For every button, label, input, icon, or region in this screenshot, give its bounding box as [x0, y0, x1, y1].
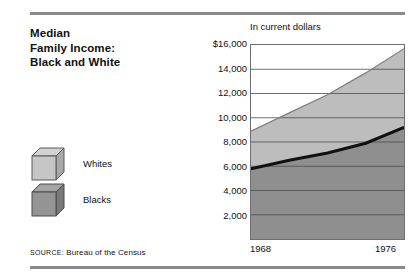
y-axis-tick-label: 10,000 — [192, 112, 247, 123]
y-axis-tick-label: 4,000 — [192, 185, 247, 196]
source-text: Bureau of the Census — [66, 248, 145, 257]
y-axis-tick-label: 12,000 — [192, 87, 247, 98]
page-title-line-1: Median — [30, 26, 195, 41]
source-note: SOURCE: Bureau of the Census — [30, 248, 146, 257]
top-divider — [30, 12, 405, 15]
bottom-divider — [30, 266, 405, 269]
source-prefix: SOURCE: — [30, 249, 64, 256]
x-axis-tick-label: 1976 — [375, 243, 396, 254]
y-axis-tick-label: 14,000 — [192, 63, 247, 74]
cube-icon — [31, 183, 65, 217]
y-axis-tick-label: 6,000 — [192, 161, 247, 172]
y-axis-tick-label: $16,000 — [192, 38, 247, 49]
chart-subtitle: In current dollars — [250, 21, 321, 32]
legend-label-whites: Whites — [83, 158, 112, 169]
chart-plot-area — [250, 44, 405, 240]
cube-icon — [31, 147, 65, 181]
legend-label-blacks: Blacks — [83, 194, 111, 205]
chart-svg — [251, 45, 404, 239]
y-axis-tick-label: 8,000 — [192, 136, 247, 147]
page-title: Median Family Income: Black and White — [30, 26, 195, 70]
y-axis-tick-label: 2,000 — [192, 210, 247, 221]
x-axis-tick-label: 1968 — [250, 243, 271, 254]
page-title-line-3: Black and White — [30, 55, 195, 70]
page-title-line-2: Family Income: — [30, 41, 195, 56]
